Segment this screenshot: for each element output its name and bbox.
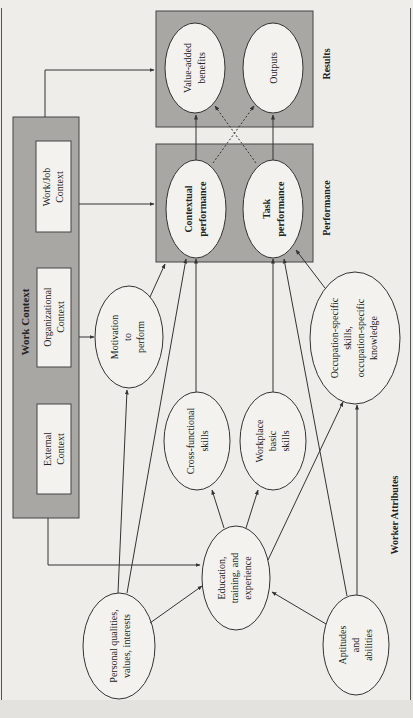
results-title: Results: [321, 48, 332, 79]
edge-personal-education: [150, 586, 202, 623]
workplace-basic-skills-node: Workplace basic skills: [240, 392, 306, 490]
occupation-line3: occupation-specific: [355, 298, 366, 377]
aptitudes-line2: and: [350, 638, 361, 652]
outputs-node: Outputs: [243, 23, 303, 113]
aptitudes-abilities-node: Aptitudes and abilities: [323, 595, 389, 695]
personal-qualities-node: Personal qualities, values, interests: [83, 593, 155, 699]
edge-education-workplace: [246, 490, 258, 528]
external-context-line1: External: [42, 432, 53, 466]
education-line2: training, and: [229, 553, 240, 604]
occupation-line2: skills,: [342, 326, 353, 350]
work-job-context-line1: Work/Job: [41, 168, 52, 207]
cross-functional-line1: Cross-functional: [185, 407, 196, 474]
aptitudes-line1: Aptitudes: [337, 625, 348, 664]
cross-functional-skills-node: Cross-functional skills: [164, 392, 230, 490]
results-panel: Value-added benefits Outputs: [156, 11, 313, 127]
organizational-context-line1: Organizational: [42, 287, 53, 346]
worker-attributes-title: Worker Attributes: [389, 475, 400, 554]
task-line2: performance: [275, 181, 286, 237]
edge-education-crossfunctional: [212, 490, 224, 528]
organizational-context-box: Organizational Context: [37, 268, 71, 367]
education-line1: Education,: [216, 556, 227, 599]
education-line3: experience: [242, 556, 253, 600]
task-line1: Task: [261, 198, 272, 219]
occupation-specific-node: Occupation-specific skills, occupation-s…: [310, 272, 400, 404]
motivation-line1: Motivation: [109, 315, 120, 359]
education-training-experience-node: Education, training, and experience: [202, 526, 270, 630]
contextual-performance-node: Contextual performance: [166, 160, 226, 258]
performance-title: Performance: [321, 180, 332, 236]
work-job-context-line2: Context: [54, 171, 65, 203]
contextual-line1: Contextual: [183, 185, 194, 232]
personal-line1: Personal qualities,: [108, 609, 119, 682]
value-added-line2: benefits: [196, 52, 207, 84]
motivation-line2: to: [122, 333, 133, 341]
edge-workcontext-education: [48, 518, 200, 565]
work-job-context-box: Work/Job Context: [36, 141, 71, 232]
cross-functional-line2: skills: [199, 430, 210, 451]
motivation-line3: perform: [135, 321, 146, 353]
external-context-box: External Context: [37, 404, 71, 494]
task-performance-node: Task performance: [243, 160, 303, 258]
edge-workjob-results: [45, 70, 154, 117]
workplace-line3: skills: [280, 430, 291, 451]
value-added-benefits-node: Value-added benefits: [165, 23, 225, 113]
aptitudes-line3: abilities: [363, 629, 374, 661]
performance-panel: Contextual performance Task performance: [156, 144, 313, 262]
worker-attributes-performance-diagram: Work Context Work/Job Context Organizati…: [0, 0, 413, 718]
value-added-line1: Value-added: [182, 43, 193, 93]
workplace-line1: Workplace: [254, 419, 265, 463]
outputs-line1: Outputs: [268, 52, 279, 84]
personal-line2: values, interests: [121, 614, 132, 678]
occupation-line1: Occupation-specific: [329, 297, 340, 378]
workplace-line2: basic: [267, 430, 278, 451]
edge-aptitudes-education: [272, 592, 326, 624]
edge-personal-motivation: [118, 390, 127, 593]
work-context-panel: Work Context Work/Job Context Organizati…: [13, 117, 79, 518]
work-context-title: Work Context: [19, 288, 31, 355]
contextual-line2: performance: [197, 181, 208, 237]
organizational-context-line2: Context: [55, 301, 66, 333]
motivation-node: Motivation to perform: [95, 286, 163, 388]
external-context-line2: Context: [55, 433, 66, 465]
edge-motivation-performance: [150, 264, 165, 297]
occupation-line4: knowledge: [368, 316, 379, 360]
